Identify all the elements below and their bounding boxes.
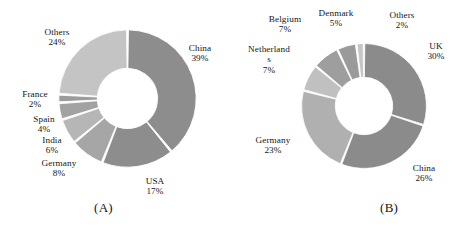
slice-label-uk-name: UK	[429, 41, 442, 51]
slice-label-usa-pct: 17%	[132, 186, 178, 196]
slice-label-france: France 2%	[7, 89, 63, 110]
slice-label-china-name: China	[189, 43, 211, 53]
slice-label-others-pct: 2%	[376, 20, 428, 30]
panel-a: Others 24% China 39% USA 17% Germany 8% …	[0, 0, 234, 232]
slice-label-uk: UK 30%	[415, 41, 457, 62]
panel-b: Others 2% UK 30% China 26% Germany 23% N…	[235, 0, 469, 232]
slice-label-belgium: Belgium 7%	[259, 14, 311, 35]
slice-label-netherlands-name: Netherland	[248, 44, 290, 54]
slice-label-germany-pct: 23%	[242, 145, 304, 155]
slice-label-denmark-pct: 5%	[307, 18, 365, 28]
slice-label-germany: Germany 23%	[242, 135, 304, 156]
donut-slice-germany	[302, 91, 353, 163]
slice-label-others-pct: 24%	[29, 37, 85, 47]
slice-label-others: Others 2%	[376, 10, 428, 31]
slice-label-others-name: Others	[44, 27, 69, 37]
slice-label-germany: Germany 8%	[28, 158, 90, 179]
slice-label-usa-name: USA	[146, 176, 165, 186]
slice-label-germany-pct: 8%	[28, 168, 90, 178]
slice-label-belgium-name: Belgium	[269, 14, 301, 24]
slice-label-india: India 6%	[30, 135, 74, 156]
panel-b-caption: (B)	[380, 200, 398, 216]
slice-label-china-pct: 26%	[400, 173, 448, 183]
donut-chart-b	[299, 41, 429, 171]
slice-label-india-pct: 6%	[30, 145, 74, 155]
slice-label-usa: USA 17%	[132, 176, 178, 197]
slice-label-germany-name: Germany	[256, 135, 291, 145]
slice-label-uk-pct: 30%	[415, 51, 457, 61]
slice-label-belgium-pct: 7%	[259, 24, 311, 34]
slice-label-others: Others 24%	[29, 27, 85, 48]
slice-label-netherlands-pct: 7%	[236, 65, 302, 75]
slice-label-others-name: Others	[389, 10, 414, 20]
slice-label-spain: Spain 4%	[21, 114, 67, 135]
slice-label-spain-name: Spain	[33, 114, 54, 124]
figure-two-donut-charts: Others 24% China 39% USA 17% Germany 8% …	[0, 0, 469, 232]
slice-label-france-pct: 2%	[7, 99, 63, 109]
slice-label-china: China 39%	[174, 43, 226, 64]
slice-label-china-pct: 39%	[174, 53, 226, 63]
slice-label-denmark-name: Denmark	[319, 8, 354, 18]
slice-label-france-name: France	[22, 89, 48, 99]
slice-label-china: China 26%	[400, 163, 448, 184]
slice-label-china-name: China	[413, 163, 435, 173]
slice-label-netherlands-name-cont: s	[236, 54, 302, 64]
donut-b-svg	[299, 41, 429, 171]
slice-label-germany-name: Germany	[42, 158, 77, 168]
donut-slice-china	[342, 115, 423, 168]
slice-label-india-name: India	[42, 135, 61, 145]
slice-label-denmark: Denmark 5%	[307, 8, 365, 29]
slice-label-spain-pct: 4%	[21, 124, 67, 134]
panel-a-caption: (A)	[94, 200, 113, 216]
slice-label-netherlands: Netherland s 7%	[236, 44, 302, 75]
